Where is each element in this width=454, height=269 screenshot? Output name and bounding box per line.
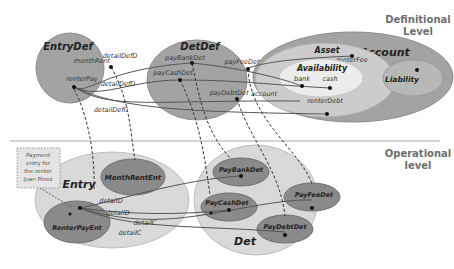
operational-level-label-2: level (405, 160, 432, 171)
det-title: Det (234, 235, 257, 248)
liability-title: Liability (385, 75, 420, 84)
detdef-attr-payfeedet: payFeeDet (223, 58, 260, 66)
detdef-attr-paycashdet: payCashDet (152, 69, 193, 77)
availability-title: Availability (296, 64, 348, 73)
asset-attr-renterdebt: renterDebt (307, 97, 343, 105)
availability-attr-cash: cash (322, 75, 337, 83)
paycashdet-title: PayCashDet (205, 199, 249, 207)
monthrentent-title: MonthRentEnt (105, 174, 162, 182)
definitional-level-label: Definitional (385, 14, 450, 25)
relation-label-detaild-2: detailD (106, 209, 129, 217)
relation-label-detailc-2: detailC (119, 229, 142, 237)
entrydef-attr-renterpay: renterPay (66, 75, 98, 83)
paydebtdet-title: PayDebtDet (263, 223, 307, 231)
renterpayent-title: RenterPayEnt (52, 224, 102, 232)
relation-label-detaildefd-1: detailDefD (103, 52, 138, 60)
relation-label-account: account (251, 90, 277, 98)
note-line-4: Juan Pérez (23, 176, 53, 183)
note-line-2: entry for (26, 160, 51, 167)
diagram-canvas: Definitional Level Operational level Ent… (0, 0, 454, 269)
asset-title: Asset (314, 46, 341, 55)
detdef-attr-paybankdet: payBankDet (164, 54, 205, 62)
entry-title: Entry (62, 178, 96, 191)
relation-label-detaild-1: detailD (99, 197, 122, 205)
availability-attr-bank: bank (294, 75, 310, 83)
payfeedet-title: PayFeeDet (295, 191, 334, 199)
entrydef-title: EntryDef (43, 41, 94, 52)
relation-label-detaildefc: detailDefC (94, 106, 129, 114)
detdef-title: DetDef (180, 41, 221, 52)
operational-level-label: Operational (385, 148, 452, 159)
relation-label-detailc-1: detailC (134, 219, 157, 227)
detdef-attr-paydebtdet: payDebtDet (208, 89, 249, 97)
note-line-3: the renter (24, 168, 52, 174)
renterpayent-ellipse[interactable] (44, 201, 110, 243)
paybankdet-title: PayBankDet (219, 166, 264, 174)
note-line-1: Payment (26, 152, 51, 159)
definitional-level-label-2: Level (403, 26, 433, 37)
